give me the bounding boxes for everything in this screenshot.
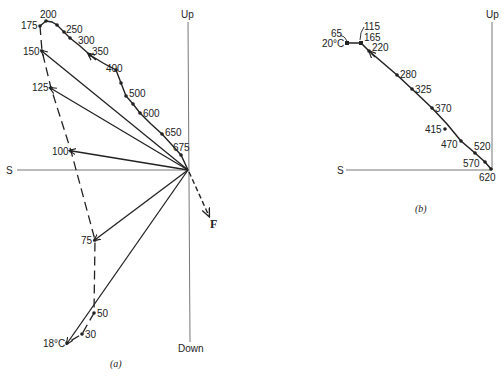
diagram-b: Up S 20°C 65 115 165 220 280 325 370 415… bbox=[322, 9, 499, 215]
point-label: 470 bbox=[441, 139, 458, 150]
points-b bbox=[345, 41, 493, 171]
point-label: 50 bbox=[97, 308, 109, 319]
point-label: 415 bbox=[425, 124, 442, 135]
caption-b: (b) bbox=[415, 203, 427, 215]
caption-a: (a) bbox=[110, 358, 122, 370]
f-label: F bbox=[210, 217, 217, 231]
point-label: 175 bbox=[21, 20, 38, 31]
trajectory-b bbox=[347, 43, 491, 169]
point-label: 650 bbox=[165, 127, 182, 138]
point-label: 115 bbox=[364, 21, 380, 32]
down-label-a: Down bbox=[178, 343, 204, 354]
south-label-a: S bbox=[6, 165, 13, 176]
point-label: 325 bbox=[415, 84, 432, 95]
point-label: 675 bbox=[173, 142, 190, 153]
point-label: 500 bbox=[129, 88, 146, 99]
point-label: 30 bbox=[85, 329, 97, 340]
point-label: 570 bbox=[463, 158, 480, 169]
point-label: 520 bbox=[474, 141, 491, 152]
point-label: 125 bbox=[32, 82, 49, 93]
f-vector bbox=[189, 172, 209, 216]
diagram-a: Up Down S F 175 bbox=[6, 9, 217, 370]
point-label: 200 bbox=[40, 9, 57, 20]
point-label: 620 bbox=[479, 172, 496, 183]
point-label: 350 bbox=[92, 46, 109, 57]
point-label: 220 bbox=[372, 42, 389, 53]
up-down-axis-a bbox=[188, 22, 190, 342]
point-label: 600 bbox=[143, 108, 160, 119]
up-label-b: Up bbox=[486, 9, 499, 20]
point-label: 300 bbox=[78, 35, 95, 46]
up-label-a: Up bbox=[181, 9, 194, 20]
demagnetization-vector-diagrams: Up Down S F 175 bbox=[0, 0, 504, 377]
vectors-a bbox=[43, 52, 188, 342]
point-label: 65 bbox=[331, 28, 343, 39]
point-label: 250 bbox=[66, 24, 83, 35]
point-label: 370 bbox=[435, 103, 452, 114]
point-label: 75 bbox=[81, 235, 93, 246]
point-label: 20°C bbox=[322, 38, 344, 49]
point-label: 150 bbox=[23, 46, 40, 57]
point-label: 280 bbox=[400, 69, 417, 80]
south-label-b: S bbox=[337, 165, 344, 176]
point-label: 400 bbox=[106, 63, 123, 74]
dashed-trajectory-a bbox=[40, 26, 95, 343]
point-label: 18°C bbox=[43, 338, 65, 349]
point-label: 100 bbox=[52, 146, 69, 157]
